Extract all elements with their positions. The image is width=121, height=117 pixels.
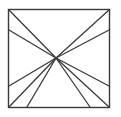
figure-container xyxy=(0,0,121,117)
square-radiating-lines-diagram xyxy=(0,0,121,117)
